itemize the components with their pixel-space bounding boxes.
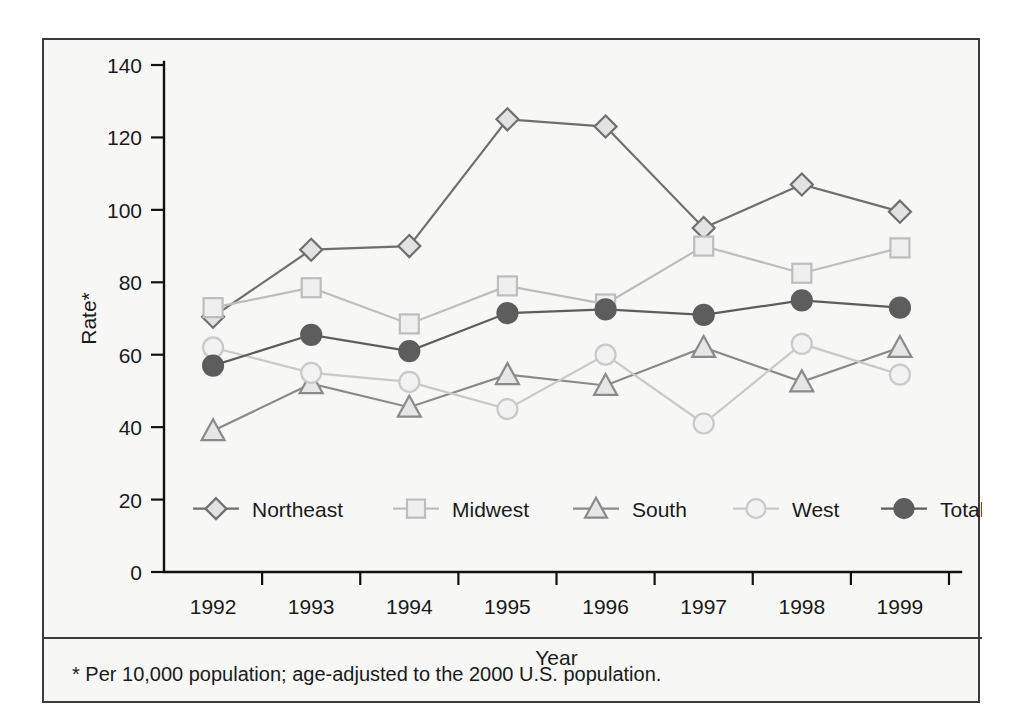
x-tick-label: 1998	[778, 595, 825, 618]
data-point-marker	[890, 365, 910, 385]
legend-label: Northeast	[252, 498, 343, 521]
data-point-marker	[206, 498, 227, 519]
data-point-marker	[692, 336, 715, 357]
data-point-marker	[497, 303, 517, 323]
legend-label: West	[792, 498, 840, 521]
data-point-marker	[203, 356, 223, 376]
data-point-marker	[890, 238, 909, 257]
legend-item-south	[573, 498, 619, 518]
data-point-marker	[399, 341, 419, 361]
data-point-marker	[747, 499, 766, 518]
data-point-marker	[888, 336, 911, 357]
line-chart: 0204060801001201401992199319941995199619…	[44, 40, 982, 705]
data-point-marker	[792, 264, 811, 283]
y-tick-label: 0	[130, 561, 142, 584]
data-point-marker	[497, 399, 517, 419]
figure-frame: 0204060801001201401992199319941995199619…	[42, 38, 980, 703]
data-point-marker	[694, 237, 713, 256]
data-point-marker	[895, 499, 914, 518]
x-tick-label: 1997	[680, 595, 727, 618]
y-tick-label: 140	[107, 54, 142, 77]
data-point-marker	[398, 235, 420, 257]
data-point-marker	[792, 290, 812, 310]
legend-item-northeast	[193, 498, 239, 519]
data-point-marker	[399, 372, 419, 392]
data-point-marker	[694, 414, 714, 434]
legend-item-total	[881, 499, 927, 518]
y-axis-title: Rate*	[77, 292, 100, 345]
y-tick-label: 100	[107, 199, 142, 222]
x-tick-label: 1994	[386, 595, 433, 618]
footnote: * Per 10,000 population; age-adjusted to…	[72, 663, 661, 685]
chart-axes	[164, 62, 961, 572]
y-tick-label: 60	[119, 344, 142, 367]
data-point-marker	[889, 201, 911, 223]
data-point-marker	[202, 419, 225, 440]
data-point-marker	[300, 239, 322, 261]
data-point-marker	[596, 299, 616, 319]
legend-label: Midwest	[452, 498, 529, 521]
x-tick-label: 1993	[288, 595, 335, 618]
legend-item-midwest	[393, 500, 439, 518]
x-tick-label: 1992	[190, 595, 237, 618]
data-point-marker	[596, 345, 616, 365]
x-tick-label: 1996	[582, 595, 629, 618]
data-point-marker	[790, 370, 813, 391]
data-point-marker	[498, 276, 517, 295]
data-point-marker	[496, 363, 519, 384]
data-point-marker	[301, 363, 321, 383]
data-point-marker	[694, 305, 714, 325]
y-tick-label: 40	[119, 416, 142, 439]
data-point-marker	[301, 325, 321, 345]
y-tick-label: 120	[107, 126, 142, 149]
data-point-marker	[792, 334, 812, 354]
legend-label: South	[632, 498, 687, 521]
x-tick-label: 1995	[484, 595, 531, 618]
data-point-marker	[203, 337, 223, 357]
data-point-marker	[204, 298, 223, 317]
y-tick-label: 80	[119, 271, 142, 294]
y-tick-label: 20	[119, 489, 142, 512]
x-tick-label: 1999	[877, 595, 924, 618]
legend-label: Total	[940, 498, 982, 521]
data-point-marker	[890, 298, 910, 318]
legend-item-west	[733, 499, 779, 518]
data-point-marker	[302, 278, 321, 297]
data-point-marker	[791, 174, 813, 196]
data-point-marker	[496, 108, 518, 130]
data-point-marker	[400, 314, 419, 333]
data-point-marker	[407, 500, 425, 518]
